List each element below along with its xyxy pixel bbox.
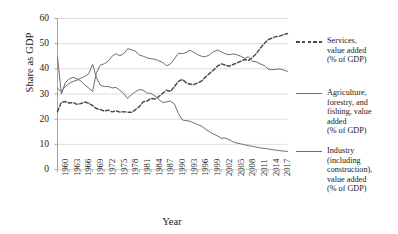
x-tick-label: 1978 <box>131 159 140 176</box>
x-tick-label: 1987 <box>166 159 175 176</box>
x-tick-label: 1996 <box>201 159 210 176</box>
legend-label: Agriculture,forestry, andfishing, valuea… <box>327 88 372 136</box>
legend-label: Services,value added(% of GDP) <box>327 36 367 65</box>
x-tick-label: 1972 <box>108 159 117 176</box>
x-tick-label: 1966 <box>84 159 93 176</box>
x-tick-label: 2005 <box>237 159 246 176</box>
legend-swatch-icon <box>296 151 322 152</box>
x-axis-title: Year <box>57 216 287 227</box>
series-line-0 <box>58 34 288 113</box>
legend-item[interactable]: Services,value added(% of GDP) <box>296 36 367 65</box>
x-tick-label: 1999 <box>213 159 222 176</box>
legend-swatch-icon <box>296 93 322 94</box>
legend-item[interactable]: Agriculture,forestry, andfishing, valuea… <box>296 88 372 136</box>
x-tick-label: 1993 <box>190 159 199 176</box>
line-chart: Share as GDP 0102030405060 1960196319661… <box>0 0 398 234</box>
x-tick-label: 2011 <box>260 159 269 176</box>
x-tick-label: 1984 <box>155 159 164 176</box>
legend-item[interactable]: Industry(includingconstruction),value ad… <box>296 146 372 194</box>
legend-label: Industry(includingconstruction),value ad… <box>327 146 372 194</box>
x-tick-label: 1960 <box>61 159 70 176</box>
x-tick-label: 2008 <box>248 159 257 176</box>
x-tick-label: 2014 <box>272 159 281 176</box>
x-tick-label: 1981 <box>143 159 152 176</box>
x-tick-label: 1963 <box>73 159 82 176</box>
series-line-2 <box>58 49 288 94</box>
x-tick-label: 1969 <box>96 159 105 176</box>
legend-swatch-icon <box>296 41 322 43</box>
x-tick-label: 1975 <box>120 159 129 176</box>
x-tick-label: 2002 <box>225 159 234 176</box>
x-tick-label: 2017 <box>283 159 292 176</box>
x-tick-label: 1990 <box>178 159 187 176</box>
series-line-1 <box>58 64 288 151</box>
